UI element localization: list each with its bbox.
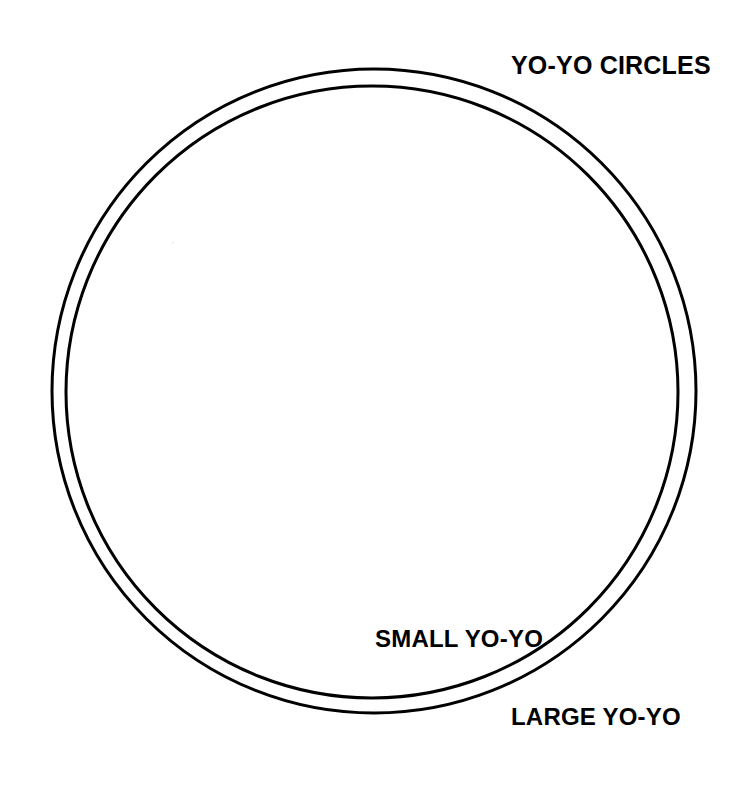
large-yoyo-circle bbox=[52, 69, 696, 713]
page-title: YO-YO CIRCLES bbox=[511, 53, 711, 78]
small-yoyo-circle bbox=[66, 86, 678, 698]
large-yoyo-label: LARGE YO-YO bbox=[511, 705, 681, 729]
scan-speck bbox=[172, 241, 174, 244]
small-yoyo-label: SMALL YO-YO bbox=[375, 627, 543, 651]
diagram-page: YO-YO CIRCLES SMALL YO-YO LARGE YO-YO bbox=[0, 0, 752, 791]
yoyo-circles-diagram bbox=[0, 0, 752, 791]
